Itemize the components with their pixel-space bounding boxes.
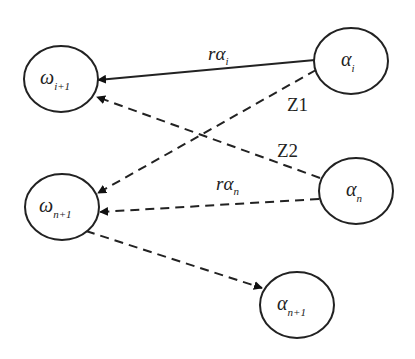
diagram-svg: rαi Z1 Z2 rαn ωi+1 αi αn ωn+1 αn+1 [0,0,415,359]
edge-alpha-i-to-omega-n1 [98,70,316,193]
edge-alpha-i-to-omega-i1 [98,60,315,80]
edge-alpha-n-to-omega-n1 [100,199,319,212]
edge-label-z2: Z2 [277,140,298,161]
node-alpha-n1: αn+1 [260,272,334,338]
edge-omega-n1-to-alpha-n1 [86,231,262,288]
node-omega-n1: ωn+1 [25,174,99,240]
node-alpha-i: αi [314,28,388,94]
diagram-canvas: rαi Z1 Z2 rαn ωi+1 αi αn ωn+1 αn+1 [0,0,415,359]
edge-label-r-alpha-i: rαi [208,43,228,67]
node-alpha-n: αn [319,158,393,224]
node-omega-i1: ωi+1 [24,46,98,112]
edge-label-r-alpha-n: rαn [216,173,239,197]
edge-label-z1: Z1 [287,94,308,115]
